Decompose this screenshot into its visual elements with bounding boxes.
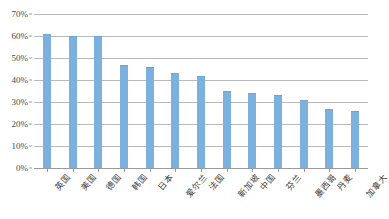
- bar-slot: [240, 14, 266, 168]
- x-axis-tick-mark: [252, 169, 253, 172]
- y-axis-tick-label: 0%: [16, 163, 28, 173]
- x-axis-tick-mark: [201, 169, 202, 172]
- bar-slot: [34, 14, 60, 168]
- x-axis-slot: 日本: [137, 169, 163, 219]
- x-axis-tick-label: 加拿大: [363, 171, 389, 199]
- bar[interactable]: [274, 95, 282, 168]
- bar[interactable]: [351, 111, 359, 168]
- y-axis-tick-label: 60%: [12, 31, 29, 41]
- bar[interactable]: [325, 109, 333, 168]
- bar-slot: [111, 14, 137, 168]
- bar-slot: [265, 14, 291, 168]
- x-axis-tick-mark: [355, 169, 356, 172]
- x-axis-tick-mark: [304, 169, 305, 172]
- y-axis-tick-label: 70%: [12, 9, 29, 19]
- y-axis-tick-label: 20%: [12, 119, 29, 129]
- y-axis-tick-label: 30%: [12, 97, 29, 107]
- y-axis-tick-mark: [29, 102, 32, 103]
- y-axis-tick-mark: [29, 36, 32, 37]
- x-axis-tick-mark: [124, 169, 125, 172]
- y-axis-tick-label: 40%: [12, 75, 29, 85]
- x-axis-tick-mark: [278, 169, 279, 172]
- x-axis-slot: 芬兰: [265, 169, 291, 219]
- x-axis-slot: 美国: [60, 169, 86, 219]
- x-axis-tick-mark: [73, 169, 74, 172]
- x-axis-slot: 韩国: [111, 169, 137, 219]
- x-axis-slot: 墨西哥: [291, 169, 317, 219]
- bar-slot: [317, 14, 343, 168]
- bar-slot: [291, 14, 317, 168]
- x-axis-slot: 中国: [240, 169, 266, 219]
- x-axis-tick-mark: [150, 169, 151, 172]
- x-axis-tick-mark: [175, 169, 176, 172]
- x-axis-slot: 丹麦: [317, 169, 343, 219]
- y-axis-tick-mark: [29, 80, 32, 81]
- x-axis-slot: 加拿大: [342, 169, 368, 219]
- y-axis-tick-mark: [29, 14, 32, 15]
- x-axis: 英国美国德国韩国日本爱尔兰法国新加坡中国芬兰墨西哥丹麦加拿大: [34, 169, 368, 219]
- x-axis-tick-mark: [227, 169, 228, 172]
- bar[interactable]: [197, 76, 205, 168]
- bar[interactable]: [300, 100, 308, 168]
- bar[interactable]: [248, 93, 256, 168]
- bar-slot: [342, 14, 368, 168]
- x-axis-slot: 新加坡: [214, 169, 240, 219]
- bar[interactable]: [43, 34, 51, 168]
- x-axis-tick-mark: [98, 169, 99, 172]
- y-axis-tick-label: 10%: [12, 141, 29, 151]
- bar-slot: [137, 14, 163, 168]
- x-axis-slot: 英国: [34, 169, 60, 219]
- bar[interactable]: [223, 91, 231, 168]
- y-axis-tick-mark: [29, 146, 32, 147]
- bar[interactable]: [146, 67, 154, 168]
- bar-slot: [188, 14, 214, 168]
- y-axis-tick-mark: [29, 124, 32, 125]
- bar[interactable]: [120, 65, 128, 168]
- y-axis-tick-label: 50%: [12, 53, 29, 63]
- bar[interactable]: [94, 36, 102, 168]
- bar-series: [34, 14, 368, 168]
- bar-slot: [85, 14, 111, 168]
- bar-slot: [214, 14, 240, 168]
- plot-area: [34, 14, 368, 168]
- bar[interactable]: [69, 36, 77, 168]
- y-axis: 70%60%50%40%30%20%10%0%: [0, 14, 32, 168]
- x-axis-tick-mark: [329, 169, 330, 172]
- bar[interactable]: [171, 73, 179, 168]
- x-axis-slot: 爱尔兰: [162, 169, 188, 219]
- x-axis-slot: 法国: [188, 169, 214, 219]
- x-axis-tick-mark: [47, 169, 48, 172]
- y-axis-tick-mark: [29, 168, 32, 169]
- bar-slot: [162, 14, 188, 168]
- bar-slot: [60, 14, 86, 168]
- y-axis-tick-mark: [29, 58, 32, 59]
- x-axis-slot: 德国: [85, 169, 111, 219]
